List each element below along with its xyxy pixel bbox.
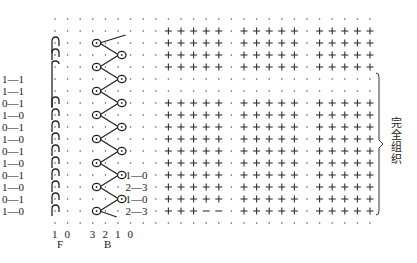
grid-dot: [281, 90, 283, 92]
grid-dot: [231, 90, 233, 92]
grid-dot: [79, 78, 81, 80]
f-row-label: 0—1: [2, 169, 24, 181]
grid-dot: [155, 90, 157, 92]
grid-dot: [105, 210, 107, 212]
grid-dot: [306, 102, 308, 104]
grid-dot: [67, 222, 69, 224]
grid-dot: [54, 222, 56, 224]
grid-dot: [344, 222, 346, 224]
grid-dot: [92, 18, 94, 20]
grid-dot: [79, 126, 81, 128]
grid-dot: [105, 138, 107, 140]
b-loop-needle: [121, 102, 123, 104]
grid-dot: [54, 162, 56, 164]
grid-dot: [306, 18, 308, 20]
grid-dot: [331, 78, 333, 80]
grid-dot: [281, 18, 283, 20]
grid-dot: [130, 150, 132, 152]
grid-dot: [155, 114, 157, 116]
grid-dot: [281, 222, 283, 224]
repeat-bracket: [376, 73, 383, 215]
grid-dot: [79, 174, 81, 176]
grid-dot: [142, 90, 144, 92]
grid-dot: [155, 30, 157, 32]
grid-dot: [105, 198, 107, 200]
grid-dot: [92, 150, 94, 152]
grid-dot: [130, 222, 132, 224]
grid-dot: [79, 66, 81, 68]
f-row-label: 1—1: [2, 85, 24, 97]
grid-dot: [357, 90, 359, 92]
grid-dot: [344, 90, 346, 92]
grid-dot: [54, 30, 56, 32]
grid-dot: [180, 222, 182, 224]
grid-dot: [54, 90, 56, 92]
grid-dot: [180, 78, 182, 80]
grid-dot: [306, 186, 308, 188]
grid-dot: [155, 222, 157, 224]
grid-dot: [294, 90, 296, 92]
b-lap-line: [100, 127, 119, 139]
grid-dot: [67, 126, 69, 128]
grid-dot: [268, 78, 270, 80]
grid-dot: [168, 18, 170, 20]
grid-dot: [117, 90, 119, 92]
b-row-label: 1—0: [126, 169, 148, 181]
grid-dot: [142, 162, 144, 164]
grid-dot: [155, 66, 157, 68]
grid-dot: [54, 114, 56, 116]
grid-dot: [344, 18, 346, 20]
grid-dot: [142, 66, 144, 68]
grid-dot: [67, 150, 69, 152]
grid-dot: [331, 222, 333, 224]
b-loop-needle: [96, 162, 98, 164]
grid-dot: [117, 210, 119, 212]
b-lap-line: [100, 115, 119, 127]
grid-dot: [117, 66, 119, 68]
grid-dot: [155, 162, 157, 164]
grid-dot: [79, 150, 81, 152]
grid-dot: [168, 90, 170, 92]
grid-dot: [54, 102, 56, 104]
grid-dot: [319, 18, 321, 20]
b-lap-line: [100, 199, 119, 211]
grid-dot: [79, 30, 81, 32]
b-loop-needle: [96, 114, 98, 116]
grid-dot: [92, 54, 94, 56]
b-lap-line: [100, 67, 119, 79]
grid-dot: [281, 78, 283, 80]
grid-dot: [142, 30, 144, 32]
grid-dot: [79, 102, 81, 104]
grid-dot: [155, 186, 157, 188]
grid-dot: [306, 90, 308, 92]
grid-dot: [92, 174, 94, 176]
grid-dot: [231, 198, 233, 200]
b-loop-needle: [121, 198, 123, 200]
grid-dot: [231, 150, 233, 152]
f-row-label: 1—0: [2, 181, 24, 193]
grid-dot: [92, 102, 94, 104]
grid-dot: [130, 66, 132, 68]
b-lap-tail: [100, 211, 117, 217]
grid-dot: [319, 90, 321, 92]
b-lap-line: [100, 103, 119, 115]
b-axis-label: B: [104, 238, 111, 250]
grid-dot: [306, 210, 308, 212]
grid-dot: [79, 138, 81, 140]
grid-dot: [155, 18, 157, 20]
grid-dot: [331, 18, 333, 20]
grid-dot: [105, 150, 107, 152]
grid-dot: [306, 198, 308, 200]
f-underlap: [52, 61, 59, 107]
grid-dot: [218, 18, 220, 20]
grid-dot: [306, 138, 308, 140]
grid-dot: [344, 78, 346, 80]
grid-dot: [256, 90, 258, 92]
grid-dot: [117, 18, 119, 20]
grid-dot: [306, 174, 308, 176]
grid-dot: [130, 90, 132, 92]
b-lap-line: [100, 175, 119, 187]
grid-dot: [105, 174, 107, 176]
grid-dot: [155, 198, 157, 200]
grid-dot: [105, 78, 107, 80]
